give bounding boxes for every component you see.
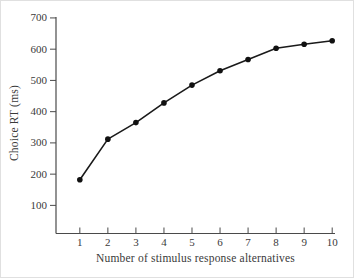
data-point-marker [301, 41, 307, 47]
x-tick-label: 9 [301, 236, 307, 248]
x-tick-label: 1 [77, 236, 83, 248]
data-point-marker [161, 100, 167, 106]
data-point-marker [245, 57, 251, 63]
y-tick-label: 600 [31, 43, 48, 55]
x-tick-label: 4 [161, 236, 167, 248]
x-tick-label: 10 [327, 236, 339, 248]
x-tick-label: 2 [105, 236, 111, 248]
data-point-marker [133, 120, 139, 126]
chart-canvas: 10020030040050060070012345678910 [1, 1, 354, 278]
rt-series-line [80, 41, 332, 180]
y-tick-label: 400 [31, 105, 48, 117]
data-point-marker [189, 82, 195, 88]
y-tick-label: 200 [31, 168, 48, 180]
x-tick-label: 5 [189, 236, 195, 248]
y-tick-label: 100 [31, 199, 48, 211]
y-tick-label: 700 [31, 11, 48, 23]
data-point-marker [105, 136, 111, 142]
line-chart-figure: 10020030040050060070012345678910 Choice … [0, 0, 354, 278]
x-axis-title: Number of stimulus response alternatives [56, 252, 335, 264]
data-point-marker [329, 38, 335, 44]
x-tick-label: 3 [133, 236, 139, 248]
y-tick-label: 300 [31, 136, 48, 148]
data-point-marker [273, 45, 279, 51]
x-tick-label: 8 [273, 236, 279, 248]
y-axis-title: Choice RT (ms) [8, 85, 20, 161]
x-tick-label: 6 [217, 236, 223, 248]
data-point-marker [217, 68, 223, 74]
y-tick-label: 500 [31, 74, 48, 86]
x-tick-label: 7 [245, 236, 251, 248]
data-point-marker [77, 177, 83, 183]
